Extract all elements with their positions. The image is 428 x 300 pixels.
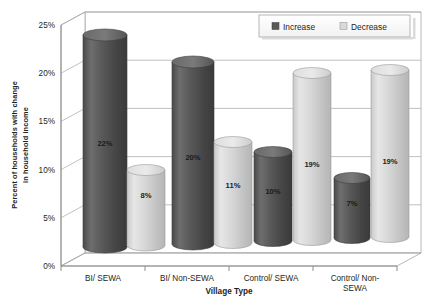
y-tick-label: 20% — [39, 69, 55, 78]
x-tick-label-bi-non-sewa: BI/ Non-SEWA — [160, 274, 214, 283]
y-axis-title-line1: Percent of households with change — [10, 81, 19, 209]
x-axis — [61, 266, 397, 271]
bar-label-increase-control-sewa: 10% — [265, 187, 280, 196]
x-tick-label-bi-sewa: BI/ SEWA — [85, 274, 122, 283]
y-tick-label: 10% — [39, 166, 55, 175]
y-tick-label: 5% — [43, 214, 55, 223]
legend: Increase Decrease — [259, 15, 416, 40]
bar-decrease-bi-non-sewa[interactable]: 11% — [214, 137, 252, 249]
bar-label-increase-bi-non-sewa: 20% — [185, 153, 200, 162]
bar-label-decrease-bi-sewa: 8% — [141, 191, 152, 200]
bar-label-decrease-control-non-sewa: 19% — [382, 157, 397, 166]
legend-label-increase: Increase — [283, 22, 315, 32]
legend-shadow-right — [413, 18, 416, 39]
plot-floor — [61, 253, 421, 266]
bar-label-decrease-control-sewa: 19% — [304, 160, 319, 169]
bar-label-decrease-bi-non-sewa: 11% — [226, 181, 241, 190]
plot-left-wall — [61, 12, 85, 266]
bar-increase-bi-non-sewa[interactable]: 20% — [172, 56, 214, 250]
x-tick-label-control-non-sewa: Control/ Non-SEWA — [331, 274, 380, 293]
y-tick-label: 0% — [43, 262, 55, 271]
bar-label-increase-bi-sewa: 22% — [97, 139, 112, 148]
bar-chart-3d: 25% 20% 15% 10% 5% 0% Percent of househo… — [0, 0, 428, 300]
bar-increase-control-non-sewa[interactable]: 7% — [334, 173, 370, 244]
legend-shadow — [262, 37, 413, 40]
chart-container: 25% 20% 15% 10% 5% 0% Percent of househo… — [0, 0, 428, 300]
y-axis-ticks: 25% 20% 15% 10% 5% 0% — [39, 21, 55, 271]
bar-decrease-bi-sewa[interactable]: 8% — [127, 165, 165, 252]
bar-decrease-control-non-sewa[interactable]: 19% — [371, 65, 409, 243]
bar-increase-bi-sewa[interactable]: 22% — [83, 29, 127, 253]
legend-box — [259, 15, 410, 37]
legend-label-decrease: Decrease — [351, 22, 387, 32]
legend-swatch-decrease — [340, 23, 347, 30]
x-axis-title: Village Type — [205, 287, 252, 296]
y-axis-title-line2: in household income — [21, 107, 30, 183]
bar-increase-control-sewa[interactable]: 10% — [254, 147, 292, 247]
y-tick-label: 25% — [39, 21, 55, 30]
legend-swatch-increase — [272, 23, 279, 30]
bar-decrease-control-sewa[interactable]: 19% — [293, 68, 331, 246]
y-tick-label: 15% — [39, 117, 55, 126]
bar-label-increase-control-non-sewa: 7% — [347, 199, 358, 208]
y-axis-title: Percent of households with change in hou… — [10, 81, 30, 209]
x-tick-label-control-sewa: Control/ SEWA — [244, 274, 299, 283]
